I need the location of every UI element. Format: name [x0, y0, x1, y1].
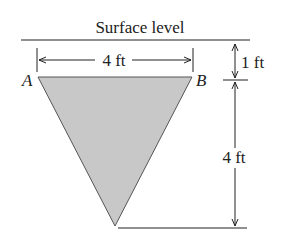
triangle-plate	[38, 77, 192, 226]
height-label: 4 ft	[222, 148, 245, 167]
surface-label: Surface level	[95, 18, 184, 37]
vertex-a-label: A	[21, 71, 33, 90]
width-label: 4 ft	[102, 51, 125, 70]
depth-label: 1 ft	[241, 53, 264, 72]
vertex-b-label: B	[196, 71, 207, 90]
triangular-plate-diagram: Surface level 4 ft A B 1 ft 4 ft	[0, 0, 288, 241]
